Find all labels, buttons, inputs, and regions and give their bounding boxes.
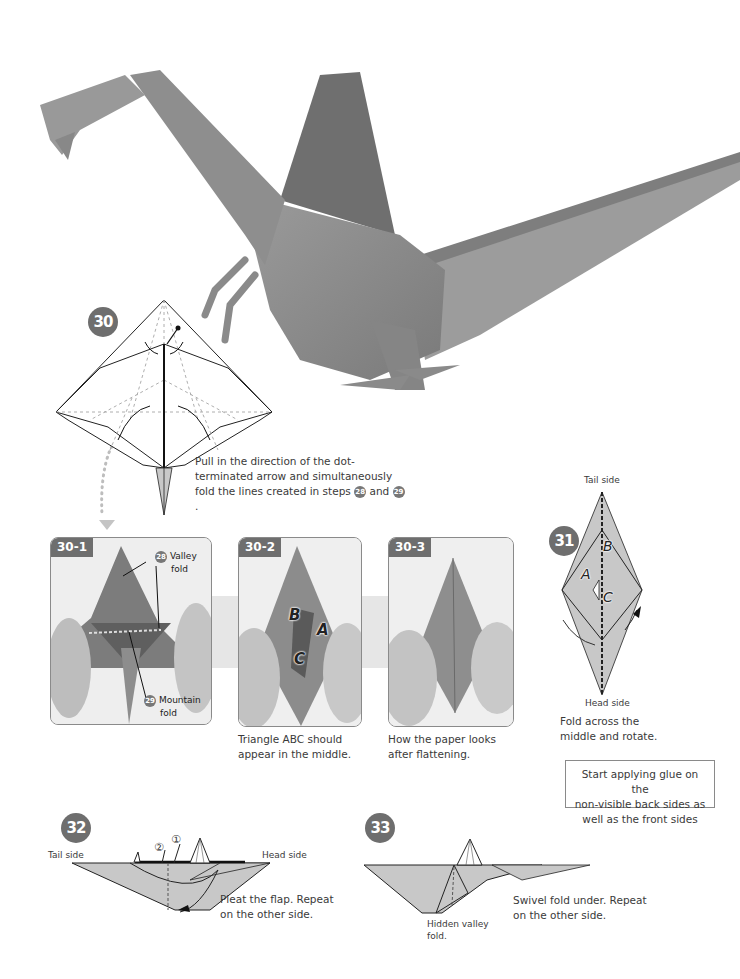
photo-30-2: 30-2 B A C bbox=[238, 537, 362, 727]
label-c: C bbox=[603, 589, 613, 605]
step-31-caption: Fold across the middle and rotate. bbox=[560, 714, 657, 744]
label-a: A bbox=[317, 621, 329, 639]
caption-line: on the other side. bbox=[220, 907, 334, 922]
step-30-3-caption: How the paper looks after flattening. bbox=[388, 732, 496, 762]
caption-line: How the paper looks bbox=[388, 732, 496, 747]
label-b: B bbox=[603, 538, 613, 554]
caption-line: after flattening. bbox=[388, 747, 496, 762]
step-31-diagram: B A C bbox=[555, 490, 675, 695]
label-b: B bbox=[289, 606, 300, 624]
photo-tag-30-2: 30-2 bbox=[239, 538, 281, 557]
note-line: non-visible back sides as bbox=[574, 797, 706, 812]
step-ref-29-badge: 29 bbox=[144, 695, 156, 707]
mountain-fold-label: fold bbox=[144, 708, 177, 718]
marker-2: ② bbox=[154, 842, 164, 854]
glue-note-box: Start applying glue on the non-visible b… bbox=[565, 760, 715, 808]
step-ref-28-badge: 28 bbox=[354, 486, 366, 498]
note-line: well as the front sides bbox=[574, 812, 706, 827]
caption-line: fold. bbox=[427, 930, 489, 942]
label-c: C bbox=[294, 650, 305, 668]
caption-line: Triangle ABC should bbox=[238, 732, 351, 747]
valley-fold-label: fold bbox=[155, 564, 188, 574]
step-30-2-caption: Triangle ABC should appear in the middle… bbox=[238, 732, 351, 762]
step-30-caption-and: and bbox=[366, 485, 392, 497]
callout-valley-fold: 28 Valley fold bbox=[155, 550, 197, 575]
note-line: Start applying glue on the bbox=[574, 767, 706, 797]
caption-line: middle and rotate. bbox=[560, 729, 657, 744]
photo-tag-30-3: 30-3 bbox=[389, 538, 431, 557]
hidden-valley-fold-label: Hidden valley fold. bbox=[427, 918, 489, 942]
step-31-head-label: Head side bbox=[585, 697, 630, 709]
caption-line: Swivel fold under. Repeat bbox=[513, 893, 647, 908]
photo-30-1: 30-1 28 Valley fold 29 Mountain fold bbox=[50, 537, 212, 725]
step-30-caption: Pull in the direction of the dot-termina… bbox=[195, 454, 405, 514]
caption-line: Hidden valley bbox=[427, 918, 489, 930]
mountain-label: Mountain bbox=[159, 695, 201, 705]
connector-band bbox=[360, 596, 390, 668]
callout-mountain-fold: 29 Mountain fold bbox=[144, 694, 201, 719]
connector-band bbox=[212, 596, 240, 668]
caption-line: Pleat the flap. Repeat bbox=[220, 892, 334, 907]
caption-line: appear in the middle. bbox=[238, 747, 351, 762]
caption-line: Fold across the bbox=[560, 714, 657, 729]
step-31-tail-label: Tail side bbox=[584, 474, 620, 486]
step-ref-28-badge: 28 bbox=[155, 551, 167, 563]
caption-line: on the other side. bbox=[513, 908, 647, 923]
step-33-caption: Swivel fold under. Repeat on the other s… bbox=[513, 893, 647, 923]
label-a: A bbox=[581, 566, 591, 582]
step-30-caption-end: . bbox=[195, 500, 198, 512]
step-32-caption: Pleat the flap. Repeat on the other side… bbox=[220, 892, 334, 922]
step-ref-29-badge: 29 bbox=[393, 486, 405, 498]
valley-label: Valley bbox=[170, 551, 197, 561]
photo-30-3: 30-3 bbox=[388, 537, 514, 727]
down-pointer-icon bbox=[99, 520, 115, 530]
marker-1: ① bbox=[171, 834, 181, 846]
photo-tag-30-1: 30-1 bbox=[51, 538, 93, 557]
